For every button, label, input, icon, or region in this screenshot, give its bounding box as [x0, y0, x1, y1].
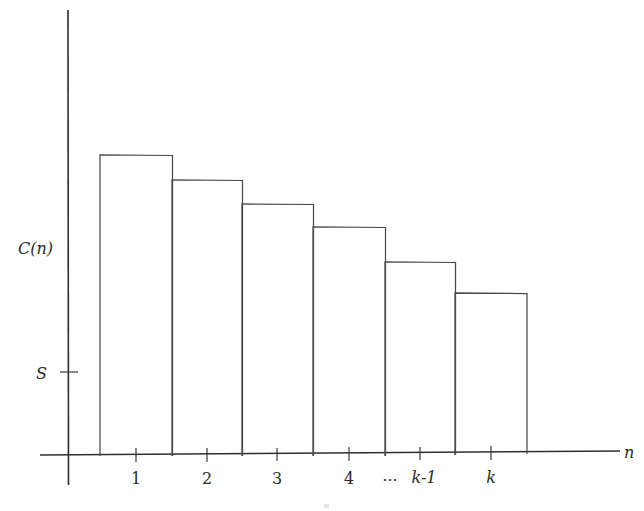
x-tick-label-k: k: [486, 468, 496, 487]
y-axis-label: C(n): [18, 239, 53, 258]
bar-1: [100, 155, 173, 456]
y-axis-line: [68, 10, 69, 485]
x-tick-label-k-minus-1: k-1: [412, 468, 437, 487]
axes-group: [40, 10, 620, 485]
plot-canvas: 1 2 3 4 ... k-1 k C(n) S n: [0, 0, 644, 511]
axis-titles: C(n) S n: [18, 239, 634, 462]
x-tick-label-4: 4: [344, 469, 354, 488]
x-tick-label-2: 2: [202, 469, 212, 488]
figure-root: 1 2 3 4 ... k-1 k C(n) S n: [0, 0, 644, 511]
bars-group: [100, 155, 527, 456]
scan-artifact: [324, 504, 329, 508]
x-tick-label-3: 3: [272, 469, 282, 488]
bar-5: [385, 262, 456, 456]
bar-4: [313, 227, 386, 456]
bar-6: [455, 293, 527, 455]
x-axis-line: [40, 451, 620, 455]
x-tick-labels: 1 2 3 4 ... k-1 k: [131, 466, 496, 488]
bar-3: [242, 204, 314, 456]
x-axis-label: n: [624, 443, 634, 462]
x-axis-ellipsis: ...: [382, 466, 397, 485]
threshold-label-s: S: [36, 364, 47, 383]
bar-2: [172, 180, 243, 456]
x-tick-label-1: 1: [131, 469, 141, 488]
